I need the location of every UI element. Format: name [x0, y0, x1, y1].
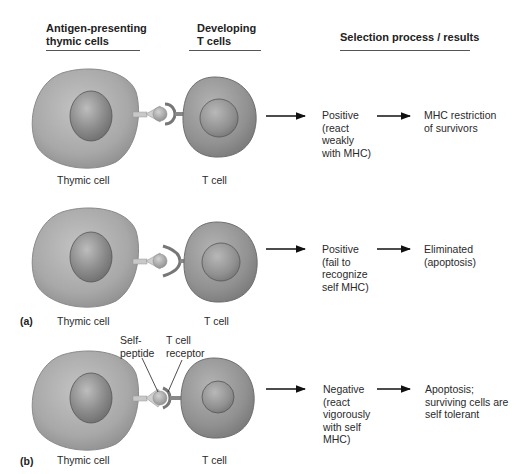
receptor-leader-line — [168, 360, 182, 392]
self-peptide-leader-line — [142, 358, 158, 392]
thymic-cell-icon — [32, 69, 138, 168]
self-peptide-callout: Self- peptide — [120, 334, 154, 359]
result-text: Apoptosis; surviving cells are self tole… — [425, 383, 508, 421]
result-text: MHC restriction of survivors — [424, 109, 496, 134]
thymic-cell-label: Thymic cell — [57, 174, 110, 187]
t-cell-label: T cell — [202, 174, 227, 187]
t-cell-icon — [183, 77, 256, 157]
process-text: Positive (react weakly with MHC) — [322, 109, 371, 159]
t-cell-icon — [181, 358, 254, 438]
t-cell-receptor-callout: T cell receptor — [166, 334, 205, 359]
thymic-cell-label: Thymic cell — [57, 315, 110, 328]
panel-label-b: (b) — [20, 455, 33, 467]
thymic-cell-label: Thymic cell — [57, 454, 110, 467]
thymic-cell-icon — [32, 351, 138, 450]
t-cell-icon — [184, 222, 257, 302]
t-cell-label: T cell — [202, 454, 227, 467]
panel-label-a: (a) — [20, 315, 33, 327]
process-text: Negative (react vigorously with self MHC… — [323, 383, 370, 446]
t-cell-label: T cell — [204, 315, 229, 328]
thymic-cell-icon — [32, 208, 138, 307]
process-text: Positive (fail to recognize self MHC) — [322, 243, 369, 293]
result-text: Eliminated (apoptosis) — [424, 243, 476, 268]
